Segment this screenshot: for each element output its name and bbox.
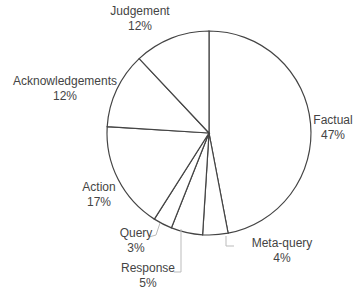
slice-label-percent: 47%: [313, 128, 352, 143]
slice-label-name: Query: [120, 226, 153, 241]
slice-label-name: Action: [82, 180, 115, 195]
slice-label-percent: 3%: [120, 241, 153, 256]
leader-line: [226, 236, 234, 246]
slice-label-name: Factual: [313, 113, 352, 128]
slice-label-name: Meta-query: [252, 236, 313, 251]
slice-label-percent: 5%: [121, 276, 175, 291]
slice-label-response: Response5%: [121, 261, 175, 291]
slice-label-name: Judgement: [110, 4, 169, 19]
slice-label-percent: 17%: [82, 195, 115, 210]
slice-label-judgement: Judgement12%: [110, 4, 169, 34]
slice-label-name: Response: [121, 261, 175, 276]
slice-label-factual: Factual47%: [313, 113, 352, 143]
leader-line: [174, 229, 181, 272]
slice-label-name: Acknowledgements: [13, 74, 117, 89]
slice-label-acknowledgements: Acknowledgements12%: [13, 74, 117, 104]
slice-label-percent: 4%: [252, 251, 313, 266]
slice-label-action: Action17%: [82, 180, 115, 210]
slice-label-meta-query: Meta-query4%: [252, 236, 313, 266]
slice-label-query: Query3%: [120, 226, 153, 256]
slice-label-percent: 12%: [110, 19, 169, 34]
pie-slice-factual: [209, 31, 311, 233]
slice-label-percent: 12%: [13, 89, 117, 104]
